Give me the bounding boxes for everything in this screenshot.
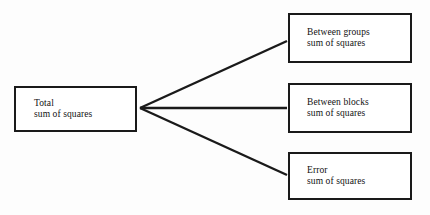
node-total-line2: sum of squares bbox=[34, 109, 135, 121]
node-error-line2: sum of squares bbox=[307, 176, 410, 188]
diagram-canvas: Total sum of squares Between groups sum … bbox=[0, 0, 430, 215]
node-between-groups-sum-of-squares[interactable]: Between groups sum of squares bbox=[288, 13, 412, 63]
node-between-blocks-line1: Between blocks bbox=[307, 97, 410, 109]
node-between-groups-line2: sum of squares bbox=[307, 38, 410, 50]
node-error-sum-of-squares[interactable]: Error sum of squares bbox=[288, 152, 412, 200]
node-total-line1: Total bbox=[34, 98, 135, 110]
node-total-sum-of-squares[interactable]: Total sum of squares bbox=[14, 86, 137, 132]
connector-total-to-error bbox=[140, 108, 287, 175]
node-between-groups-line1: Between groups bbox=[307, 27, 410, 39]
node-between-blocks-sum-of-squares[interactable]: Between blocks sum of squares bbox=[288, 83, 412, 133]
connector-total-to-between-groups bbox=[140, 41, 287, 108]
node-between-blocks-line2: sum of squares bbox=[307, 108, 410, 120]
node-error-line1: Error bbox=[307, 165, 410, 177]
